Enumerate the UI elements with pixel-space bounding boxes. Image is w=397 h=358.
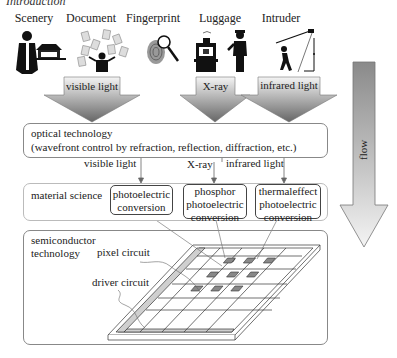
signal-label-visible-light: visible light [84, 157, 136, 170]
optical-technology-box: optical technology (wavefront control by… [23, 123, 328, 158]
material-box-line: conversion [111, 201, 172, 214]
semiconductor-technology-box: semiconductor technology pixel circuit d… [23, 230, 328, 345]
signal-label-xray: X-ray [187, 158, 213, 171]
flow-label: flow [357, 140, 370, 160]
material-box-line: phosphor [184, 185, 246, 198]
optical-subtitle: (wavefront control by refraction, reflec… [31, 141, 297, 154]
fingerprint-magnifier-icon [147, 36, 178, 64]
pixel-circuit-label: pixel circuit [97, 246, 150, 259]
material-box-line: photoelectric [256, 198, 320, 211]
optical-title: optical technology [31, 127, 113, 140]
material-box-phosphor: phosphor photoelectric conversion [183, 184, 247, 219]
semiconductor-title-line1: semiconductor [31, 234, 96, 247]
arrow-label-xray: X-ray [196, 80, 235, 93]
intruder-sensor-icon [276, 29, 315, 72]
scenery-person-temple-icon [16, 31, 66, 74]
arrow-label-infrared: infrared light [255, 79, 323, 92]
material-box-photoelectric: photoelectric conversion [110, 185, 173, 215]
luggage-xray-guard-icon [194, 30, 247, 72]
material-box-line: thermaleffect [256, 185, 320, 198]
material-box-line: conversion [184, 211, 246, 224]
arrow-label-visible-light: visible light [64, 80, 120, 93]
material-box-line: conversion [256, 211, 320, 224]
document-person-icon [78, 30, 129, 72]
driver-circuit-label: driver circuit [92, 276, 149, 289]
material-box-thermaleffect: thermaleffect photoelectric conversion [255, 184, 321, 219]
material-title: material science [31, 189, 102, 202]
material-box-line: photoelectric [111, 188, 172, 201]
material-box-line: photoelectric [184, 198, 246, 211]
semiconductor-title-line2: technology [31, 247, 80, 260]
signal-label-infrared: infrared light [226, 157, 284, 170]
